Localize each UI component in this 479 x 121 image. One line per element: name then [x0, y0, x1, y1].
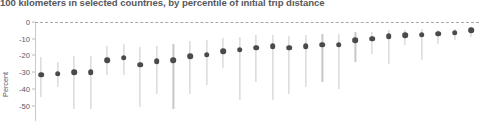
data-point: [121, 55, 127, 61]
data-point: [138, 62, 144, 68]
error-bar: [173, 44, 174, 109]
data-point: [154, 58, 160, 64]
data-point: [386, 33, 392, 39]
data-point: [187, 53, 193, 59]
data-point: [419, 32, 425, 38]
y-tick-label: -40: [0, 84, 30, 93]
y-tick-label: 0: [0, 18, 30, 27]
error-bar: [256, 35, 257, 82]
data-point: [469, 28, 475, 34]
y-tick-label: -20: [0, 51, 30, 60]
y-tick-label: -10: [0, 34, 30, 43]
data-point: [253, 45, 259, 51]
error-bar: [140, 47, 141, 107]
data-point: [204, 52, 210, 58]
y-tick-mark: [32, 105, 35, 106]
chart-figure: 100 kilometers in selected countries, by…: [0, 0, 479, 121]
y-tick-mark: [32, 72, 35, 73]
data-point: [38, 72, 44, 78]
y-tick-mark: [32, 88, 35, 89]
data-point: [369, 36, 375, 42]
data-point: [71, 69, 77, 75]
data-point: [88, 69, 94, 75]
error-bar: [90, 56, 91, 109]
error-bar: [74, 56, 75, 109]
error-bar: [206, 40, 207, 85]
data-point: [402, 33, 408, 39]
data-point: [270, 43, 276, 49]
zero-line: [35, 22, 479, 23]
data-point: [237, 47, 243, 53]
plot-area: Percent 0-10-20-30-40-50: [0, 14, 479, 121]
error-bar: [156, 46, 157, 94]
data-point: [303, 43, 309, 49]
data-point: [320, 42, 326, 48]
data-point: [220, 48, 226, 54]
y-tick-label: -50: [0, 101, 30, 110]
error-bar: [355, 32, 356, 62]
data-point: [104, 58, 110, 64]
data-point: [435, 31, 441, 37]
data-point: [336, 42, 342, 48]
data-point: [171, 58, 177, 64]
data-point: [452, 30, 458, 36]
y-tick-mark: [32, 55, 35, 56]
y-tick-label: -30: [0, 68, 30, 77]
y-tick-mark: [32, 38, 35, 39]
data-point: [286, 45, 292, 51]
error-bar: [189, 41, 190, 94]
data-point: [55, 71, 61, 77]
data-point: [353, 38, 359, 44]
chart-title: 100 kilometers in selected countries, by…: [0, 0, 479, 9]
